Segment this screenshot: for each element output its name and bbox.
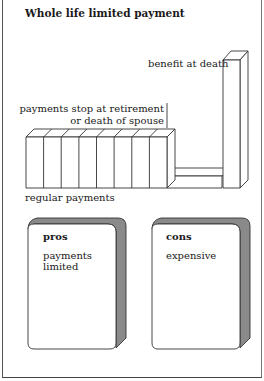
stop-label-line2: or death of spouse <box>70 115 164 126</box>
benefit-pillar <box>223 51 248 188</box>
cons-body-line1: expensive <box>166 250 216 261</box>
cons-card <box>148 214 252 352</box>
stop-label-line1: payments stop at retirement <box>19 103 164 114</box>
pros-card <box>24 214 128 352</box>
pros-body-line1: payments <box>43 250 92 261</box>
payment-blocks <box>26 129 175 188</box>
benefit-label: benefit at death <box>148 58 228 69</box>
cons-heading: cons <box>166 231 192 242</box>
gap-bar <box>167 168 230 188</box>
regular-payments-label: regular payments <box>25 192 115 203</box>
pros-body-line2: limited <box>43 261 78 272</box>
pros-heading: pros <box>43 231 68 242</box>
